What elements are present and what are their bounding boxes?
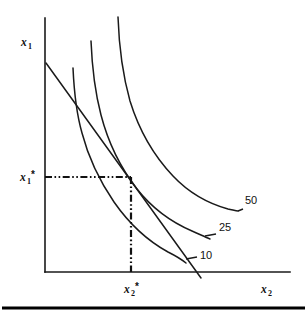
optimum-x-label-main: x: [123, 283, 130, 295]
x-axis-label: x 2: [260, 283, 272, 298]
y-axis-label: x 1: [20, 36, 32, 51]
optimum-y-label-main: x: [19, 171, 26, 183]
curve-label-25: 25: [219, 221, 231, 233]
indifference-curve-chart: 50 25 10 x 1 x 2 x 1 * x 2 *: [0, 0, 307, 320]
optimum-y-label-star: *: [31, 169, 35, 180]
leader-line-25: [205, 234, 216, 236]
y-axis-label-main: x: [20, 36, 27, 48]
isoquant-curve-50: [118, 17, 238, 211]
isoquant-curve-25: [91, 41, 210, 239]
curve-label-10: 10: [200, 249, 212, 261]
optimum-x-tick-label: x 2 *: [123, 281, 139, 298]
curve-label-50: 50: [245, 194, 257, 206]
leader-line-50: [238, 209, 243, 211]
isocost-line: [46, 63, 201, 278]
optimum-y-tick-label: x 1 *: [19, 169, 35, 186]
figure-container: 50 25 10 x 1 x 2 x 1 * x 2 *: [0, 0, 307, 320]
x-axis-label-main: x: [260, 283, 267, 295]
optimum-x-label-star: *: [135, 281, 139, 292]
leader-line-10: [186, 257, 197, 259]
y-axis-label-subscript: 1: [28, 42, 32, 51]
x-axis-label-subscript: 2: [268, 289, 272, 298]
